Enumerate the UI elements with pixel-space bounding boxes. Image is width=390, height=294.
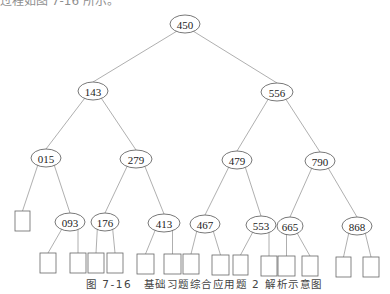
tree-node-279: 279 [120,150,152,168]
tree-edge [105,166,127,213]
tree-node-093: 093 [55,213,85,231]
tree-node-553: 553 [246,216,276,234]
empty-leaf-box [212,255,229,275]
node-key-label: 450 [177,19,194,31]
tree-edge [237,99,268,151]
tree-edge [145,166,164,214]
tree-edge [23,165,38,211]
tree-edge [328,168,357,217]
node-key-label: 413 [156,218,173,230]
node-key-label: 790 [312,156,329,168]
tree-node-176: 176 [91,213,119,231]
tree-node-479: 479 [222,151,252,169]
tree-edge [46,98,85,149]
node-key-label: 143 [85,86,102,98]
tree-edge [113,229,115,253]
empty-leaf-box [261,256,277,276]
tree-edge [193,31,277,83]
tree-node-790: 790 [305,152,335,170]
empty-leaf-box [183,254,199,274]
empty-leaf-box [336,257,351,277]
tree-edge [290,168,312,217]
tree-node-556: 556 [261,83,293,101]
node-key-label: 479 [229,155,246,167]
tree-node-665: 665 [277,217,303,235]
tree-edge [146,230,156,254]
tree-edge [286,99,320,152]
node-key-label: 553 [253,220,270,232]
tree-node-143: 143 [78,82,108,100]
tree-edge [48,229,62,253]
node-key-label: 279 [128,154,145,166]
tree-node-015: 015 [31,149,61,167]
tree-edge [241,232,253,255]
node-key-label: 015 [38,153,55,165]
tree-edge [93,31,177,82]
tree-edge [297,233,310,256]
empty-leaf-box [302,256,318,276]
empty-leaf-box [164,254,181,274]
figure-caption: 图 7-16 基础习题综合应用题 2 解析示意图 [86,276,323,291]
node-key-label: 467 [197,219,214,231]
node-key-label: 665 [282,221,299,233]
tree-node-450: 450 [170,15,200,33]
tree-edge [213,231,220,255]
node-key-label: 176 [97,217,114,229]
tree-key-nodes: 4501435560152794797900931764134675536658… [31,15,372,235]
tree-node-413: 413 [148,214,180,232]
tree-edge [54,165,70,213]
empty-leaf-box [40,253,56,273]
empty-leaf-box [137,254,154,274]
tree-edge [344,233,349,257]
tree-node-467: 467 [190,215,220,233]
empty-leaf-box [88,253,104,273]
empty-leaf-box [70,253,86,273]
tree-edge [365,233,371,257]
tree-edge [205,167,229,215]
tree-edge [101,98,136,150]
tree-edge [191,231,197,254]
tree-node-868: 868 [342,217,372,235]
tree-edge [245,167,261,216]
empty-leaf-box [278,256,295,276]
node-key-label: 093 [62,217,79,229]
empty-leaf-box [363,257,379,277]
node-key-label: 868 [349,221,366,233]
empty-leaf-box [15,211,30,231]
b-tree-diagram: 4501435560152794797900931764134675536658… [0,0,390,294]
empty-leaf-box [233,255,248,275]
empty-leaf-box [107,253,123,273]
node-key-label: 556 [269,87,286,99]
tree-edge [96,229,97,253]
